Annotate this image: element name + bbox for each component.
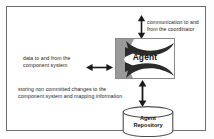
- node-agent-repository[interactable]: Agent Repository: [122, 106, 174, 137]
- node-agent[interactable]: Agent: [115, 38, 175, 79]
- label-communication-coordinator: communication to and from the coordinato…: [147, 19, 214, 32]
- node-agent-repository-label: Agent Repository: [122, 115, 174, 129]
- label-storing-non-committed-changes: storing non committed changes to the com…: [18, 86, 144, 99]
- label-data-component-system: data to and from the component system: [23, 55, 93, 68]
- node-agent-label: Agent: [116, 52, 174, 62]
- connector-agent-to-component-system: [86, 58, 113, 76]
- figure-border: communication to and from the coordinato…: [6, 6, 206, 131]
- figure-root: communication to and from the coordinato…: [0, 0, 214, 139]
